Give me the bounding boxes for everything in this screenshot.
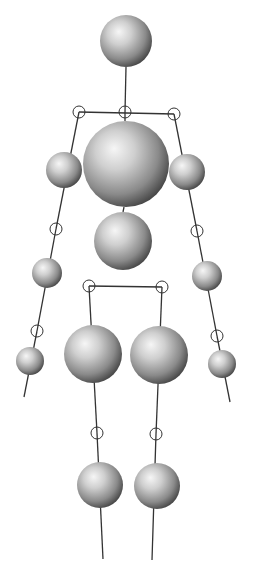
abdomen-sphere [94, 212, 152, 270]
right-hand-sphere [208, 350, 236, 378]
left-shin-sphere [77, 462, 123, 508]
left-thigh-sphere [64, 325, 122, 383]
body-model-diagram [0, 0, 257, 573]
right-shin-sphere [134, 463, 180, 509]
chest-sphere [83, 121, 169, 207]
right-upper-arm-sphere [169, 154, 205, 190]
left-upper-arm-sphere [46, 152, 82, 188]
right-forearm-sphere [192, 261, 222, 291]
left-hand-sphere [16, 347, 44, 375]
head-sphere [100, 15, 152, 67]
left-forearm-sphere [32, 258, 62, 288]
right-thigh-sphere [130, 326, 188, 384]
